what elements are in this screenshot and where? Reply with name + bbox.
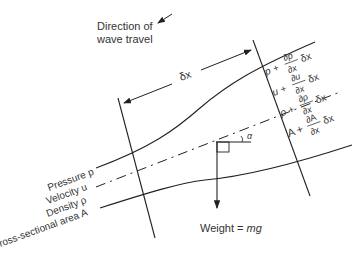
right-angle-marker: [217, 142, 229, 152]
upper-pipe-wall: [96, 42, 315, 168]
svg-text:∂x: ∂x: [309, 125, 321, 138]
weight-label: Weight = mg: [200, 222, 263, 234]
svg-text:ρ +: ρ +: [277, 103, 295, 119]
area-label: Cross-sectional area A: [0, 206, 89, 251]
pipe-element-diagram: Direction of wave travel δx α Weight = m…: [0, 0, 360, 259]
lower-pipe-wall: [100, 145, 352, 208]
left-labels: Pressure p Velocity u Density ρ Cross-se…: [0, 166, 108, 251]
right-labels: p + ∂p ∂x δx u + ∂u ∂x δx ρ + ∂ρ ∂x δx A…: [260, 45, 337, 146]
dx-arrow-right: [201, 50, 251, 70]
dx-arrow-left: [124, 84, 172, 103]
left-section-line: [118, 98, 155, 238]
angle-label: α: [247, 131, 253, 141]
direction-label-line2: wave travel: [96, 33, 153, 45]
svg-text:∂u: ∂u: [289, 71, 301, 84]
svg-text:A +: A +: [285, 122, 304, 139]
svg-text:δx: δx: [299, 50, 313, 64]
angle-arc: [241, 136, 243, 142]
svg-text:u +: u +: [271, 83, 288, 98]
dx-label: δx: [178, 67, 193, 82]
svg-text:p +: p +: [262, 62, 280, 78]
svg-text:δx: δx: [306, 71, 320, 85]
svg-text:δx: δx: [322, 112, 336, 126]
wave-direction-arrow: [158, 14, 172, 23]
direction-label-line1: Direction of: [97, 20, 154, 32]
svg-text:δx: δx: [314, 92, 328, 106]
